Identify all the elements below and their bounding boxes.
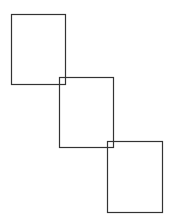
diagram-canvas [0,0,176,223]
rectangle-2 [60,78,114,148]
rectangle-3 [108,142,163,213]
rectangle-1 [12,15,66,85]
